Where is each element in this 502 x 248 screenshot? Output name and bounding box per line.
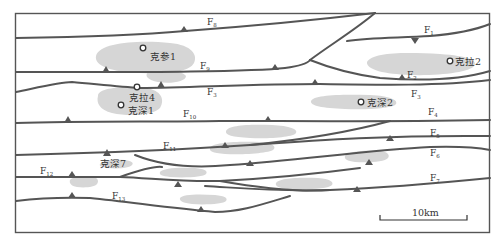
fault-label-f10: F10 (183, 109, 197, 120)
fault-label-f7: F7 (430, 173, 440, 184)
fault-labels: F8 F1 F9 F2 F3 F3 F10 F4 F5 F11 F6 F12 F… (40, 17, 440, 202)
structural-map: 克参1 克拉4 克深1 克拉2 克深2 克深7 F8 F1 F9 F2 F3 F… (0, 0, 502, 248)
thrust-marker-icon (174, 181, 182, 187)
thrust-marker-icon (311, 79, 319, 85)
fault-label-f6: F6 (430, 148, 440, 159)
zone-mid-a (160, 168, 207, 178)
zone-f13-a (180, 194, 227, 204)
structure-zones (70, 42, 475, 205)
fault-label-f9: F9 (200, 61, 210, 72)
map-frame (16, 14, 490, 233)
well-marker-icon (134, 84, 140, 90)
thrust-marker-icon (68, 192, 76, 198)
fault-label-f11: F11 (163, 141, 176, 152)
well-label-keshen1: 克深1 (128, 105, 154, 116)
fault-label-f13: F13 (112, 191, 126, 202)
thrust-marker-icon (264, 116, 272, 122)
well-label-kecan1: 克参1 (150, 51, 176, 62)
thrust-marker-icon (271, 64, 279, 70)
fault-label-f3-east: F3 (411, 89, 421, 100)
fault-label-f1: F1 (424, 25, 434, 36)
fault-f10 (16, 120, 490, 123)
thrust-marker-icon (64, 116, 72, 123)
thrust-marker-icon (197, 206, 205, 212)
fault-label-f4: F4 (428, 107, 438, 118)
well-label-kela4: 克拉4 (129, 92, 155, 103)
well-marker-icon (358, 99, 364, 105)
scale-bar: 10km (380, 207, 467, 220)
zone-f6-f7 (276, 178, 333, 190)
well-marker-icon (140, 45, 146, 51)
zone-f10-f11 (226, 125, 296, 139)
fault-label-f12: F12 (40, 166, 53, 177)
thrust-marker-icon (398, 74, 406, 80)
fault-label-f8: F8 (207, 17, 217, 28)
well-marker-icon (447, 58, 453, 64)
well-label-keshen7: 克深7 (100, 158, 126, 169)
scale-bar-label: 10km (412, 207, 439, 218)
thrust-marker-icon (180, 26, 188, 32)
thrust-marker-icon (411, 38, 419, 44)
fault-f13 (16, 196, 290, 212)
fault-label-f5: F5 (430, 128, 440, 139)
well-label-keshen2: 克深2 (367, 97, 393, 108)
well-label-kela2: 克拉2 (455, 56, 481, 67)
zone-f12 (70, 176, 98, 187)
fault-label-f3: F3 (207, 87, 217, 98)
fault-f12-cross (120, 167, 162, 177)
well-marker-icon (118, 102, 124, 108)
fault-f8 (16, 13, 375, 38)
thrust-marker-icon (68, 171, 76, 177)
